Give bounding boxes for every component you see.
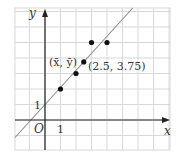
mean-point-value-label: (2.5, 3.75) — [88, 60, 146, 73]
data-point — [89, 40, 94, 45]
data-point — [73, 71, 78, 76]
scatter-chart: y x O 1 1 (x̄, ȳ) (2.5, 3.75) — [0, 0, 180, 161]
y-axis-arrow-icon — [42, 9, 48, 17]
origin-label: O — [34, 122, 44, 136]
data-point — [58, 86, 63, 91]
x-tick-label-1: 1 — [57, 123, 64, 136]
y-tick-label-1: 1 — [34, 99, 41, 112]
mean-point-name-label: (x̄, ȳ) — [49, 56, 77, 69]
mean-point — [81, 59, 86, 64]
y-axis-label: y — [28, 6, 36, 20]
data-point — [104, 40, 109, 45]
x-axis-label: x — [164, 124, 171, 138]
